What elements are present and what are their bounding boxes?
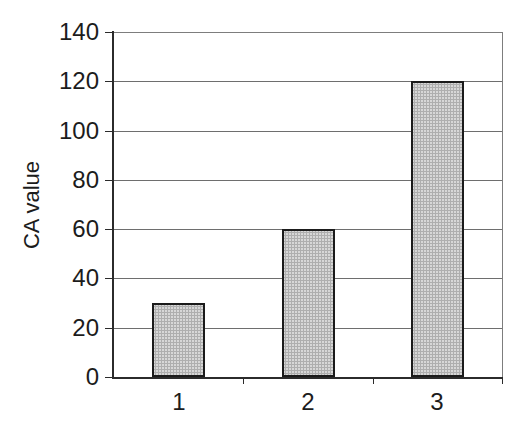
bar-category-2	[282, 229, 335, 377]
y-tick-label-80: 80	[0, 167, 99, 193]
y-tick-140	[105, 32, 114, 33]
y-axis-title: CA value	[19, 125, 45, 285]
x-tick-label-3: 3	[407, 389, 467, 415]
y-tick-100	[105, 131, 114, 132]
y-tick-label-100: 100	[0, 118, 99, 144]
chart-canvas: CA value 020406080100120140123	[0, 0, 527, 435]
y-axis-line	[112, 31, 114, 379]
plot-border-top	[114, 32, 502, 33]
y-tick-60	[105, 229, 114, 230]
y-tick-80	[105, 180, 114, 181]
x-tick-label-1: 1	[149, 389, 209, 415]
y-tick-40	[105, 278, 114, 279]
bar-category-1	[152, 303, 205, 377]
y-tick-label-0: 0	[0, 364, 99, 390]
y-tick-0	[105, 377, 114, 378]
x-tick-2	[373, 379, 374, 384]
y-tick-label-60: 60	[0, 216, 99, 242]
y-tick-label-140: 140	[0, 19, 99, 45]
x-tick-3	[502, 379, 503, 384]
y-tick-label-40: 40	[0, 265, 99, 291]
plot-border-right	[502, 32, 503, 378]
y-tick-20	[105, 328, 114, 329]
y-tick-120	[105, 81, 114, 82]
bar-category-3	[411, 81, 464, 377]
x-tick-1	[243, 379, 244, 384]
y-tick-label-20: 20	[0, 315, 99, 341]
y-tick-label-120: 120	[0, 68, 99, 94]
x-tick-label-2: 2	[278, 389, 338, 415]
x-axis-line	[112, 377, 503, 379]
bar-chart-figure: CA value 020406080100120140123	[0, 0, 527, 435]
